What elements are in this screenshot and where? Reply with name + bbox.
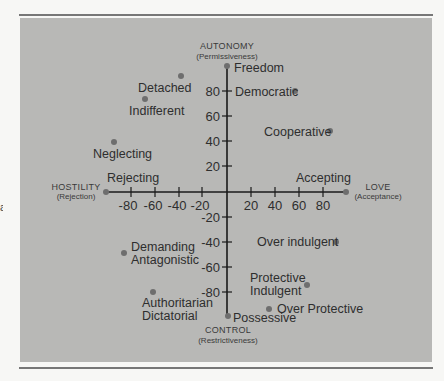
x-tick-label: -40 [168, 198, 187, 213]
label-indifferent: Indifferent [129, 104, 185, 118]
y-tick-label: -40 [201, 235, 220, 250]
parenting-styles-chart: -80 -60 -40 -20 20 40 60 80 80 60 40 20 … [0, 0, 444, 381]
point-neglecting [111, 139, 117, 145]
data-points [103, 63, 349, 319]
x-tick-label: 80 [316, 198, 330, 213]
point-authoritarian [150, 289, 156, 295]
label-demanding: Demanding [131, 240, 195, 254]
point-rejecting [103, 189, 109, 195]
x-tick-label: 60 [292, 198, 306, 213]
label-neglecting: Neglecting [93, 147, 152, 161]
x-tick-label: 40 [268, 198, 282, 213]
point-demanding [121, 250, 127, 256]
y-tick-label: -20 [201, 210, 220, 225]
axis-title-control: CONTROL [205, 325, 251, 335]
label-authoritarian: Authoritarian [142, 296, 213, 310]
label-indulgent: Indulgent [250, 284, 302, 298]
label-over-indulgent: Over indulgent [257, 235, 339, 249]
point-freedom [224, 63, 230, 69]
label-detached: Detached [138, 81, 192, 95]
point-accepting [343, 189, 349, 195]
y-tick-label: 40 [206, 134, 220, 149]
axis-title-autonomy: AUTONOMY [200, 41, 254, 51]
y-tick-label: 80 [206, 84, 220, 99]
point-indifferent [142, 96, 148, 102]
label-democratic: Democratic [235, 85, 298, 99]
y-tick-label: 20 [206, 159, 220, 174]
axis-subtitle-control: (Restrictiveness) [198, 336, 258, 345]
x-tick-label: 20 [244, 198, 258, 213]
axis-title-hostility: HOSTILITY [51, 182, 100, 192]
axis-subtitle-hostility: (Rejection) [57, 192, 96, 201]
label-cooperative: Cooperative [264, 125, 331, 139]
axis-title-love: LOVE [365, 182, 390, 192]
label-freedom: Freedom [234, 61, 284, 75]
y-tick-label: -60 [201, 260, 220, 275]
axis-subtitle-autonomy: (Permissiveness) [196, 52, 258, 61]
label-accepting: Accepting [296, 171, 351, 185]
point-possessive [225, 313, 231, 319]
label-antagonistic: Antagonistic [131, 253, 199, 267]
axis-subtitle-love: (Acceptance) [354, 192, 401, 201]
y-tick-label: 60 [206, 109, 220, 124]
label-protective: Protective [250, 271, 306, 285]
label-rejecting: Rejecting [107, 171, 159, 185]
x-tick-label: -60 [144, 198, 163, 213]
x-tick-label: -80 [119, 198, 138, 213]
point-detached [178, 73, 184, 79]
x-tick-labels: -80 -60 -40 -20 20 40 60 80 [119, 198, 331, 213]
label-possessive: Possessive [233, 311, 296, 325]
label-dictatorial: Dictatorial [142, 309, 198, 323]
